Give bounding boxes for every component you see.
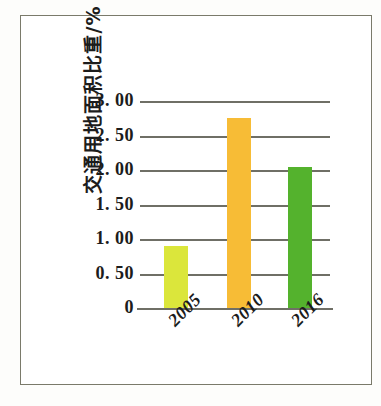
y-tick-label: 1. 00	[62, 228, 134, 249]
bar-2016[interactable]	[288, 167, 312, 308]
y-tick-label: 3. 00	[62, 90, 134, 111]
plot-area	[140, 101, 330, 308]
y-axis-tick-labels: 3. 00 2. 50 2. 00 1. 50 1. 00 0. 50 0	[60, 101, 134, 308]
y-tick-label: 2. 50	[62, 125, 134, 146]
y-tick-label: 0	[62, 297, 134, 318]
y-tick-label: 1. 50	[62, 194, 134, 215]
y-tick-label: 0. 50	[62, 263, 134, 284]
gridline	[140, 101, 330, 103]
chart-figure: 交通用地面积比重/% 3. 00 2. 50 2. 00 1. 50 1. 00…	[0, 0, 381, 406]
bar-2010[interactable]	[227, 118, 251, 308]
x-axis-tick-labels: 2005 2010 2016	[140, 316, 340, 376]
y-tick-label: 2. 00	[62, 159, 134, 180]
